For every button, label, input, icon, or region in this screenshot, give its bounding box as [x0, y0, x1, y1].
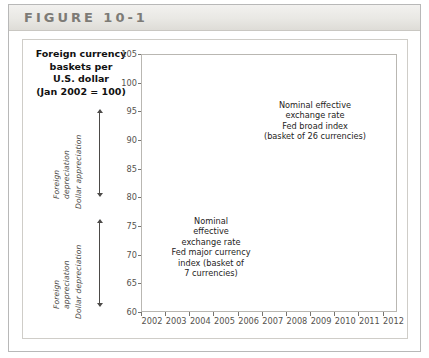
chart-panel: Foreign currency baskets per U.S. dollar…	[22, 39, 408, 339]
annotation-line: Nominal	[147, 216, 275, 226]
y-tick-label: 60	[113, 307, 137, 317]
y-tick-label: 75	[113, 221, 137, 231]
y-tick-label: 70	[113, 250, 137, 260]
y-tick-label: 100	[113, 78, 137, 88]
annotation-line: exchange rate	[233, 110, 397, 120]
plot-area: 1051009590858075706560 20022003200420052…	[141, 54, 397, 312]
direction-upper-arrow-icon	[99, 110, 100, 196]
y-axis-title-line-2: baskets per	[31, 61, 131, 74]
y-tick-label: 80	[113, 192, 137, 202]
annotation-line: exchange rate	[147, 237, 275, 247]
direction-label-lower: Foreign appreciation Dollar depreciation	[51, 214, 125, 216]
y-tick-label: 65	[113, 278, 137, 288]
figure-header-band: FIGURE 10-1	[9, 5, 420, 31]
annotation-line: Fed broad index	[233, 121, 397, 131]
direction-lower-line-3: Dollar depreciation	[74, 245, 83, 319]
y-tick-label: 85	[113, 164, 137, 174]
annotation-line: Fed major currency	[147, 247, 275, 257]
figure-container: FIGURE 10-1 Foreign currency baskets per…	[8, 4, 421, 352]
y-tick-label: 105	[113, 49, 137, 59]
direction-lower-arrow-icon	[99, 220, 100, 306]
annotation-line: Nominal effective	[233, 100, 397, 110]
annotation-major-index: Nominaleffectiveexchange rateFed major c…	[147, 216, 275, 278]
direction-lower-line-2: appreciation	[62, 260, 71, 309]
annotation-line: index (basket of	[147, 258, 275, 268]
annotation-line: effective	[147, 226, 275, 236]
x-tick-label: 2012	[377, 316, 411, 326]
annotation-line: 7 currencies)	[147, 268, 275, 278]
direction-upper-line-3: Dollar appreciation	[74, 135, 83, 209]
direction-upper-line-1: Foreign	[52, 170, 61, 199]
direction-lower-line-1: Foreign	[52, 280, 61, 309]
direction-upper-line-2: depreciation	[62, 150, 71, 199]
y-tick-label: 95	[113, 106, 137, 116]
annotation-line: (basket of 26 currencies)	[233, 131, 397, 141]
y-tick-label: 90	[113, 135, 137, 145]
figure-label: FIGURE 10-1	[24, 10, 148, 25]
annotation-broad-index: Nominal effectiveexchange rateFed broad …	[233, 100, 397, 142]
